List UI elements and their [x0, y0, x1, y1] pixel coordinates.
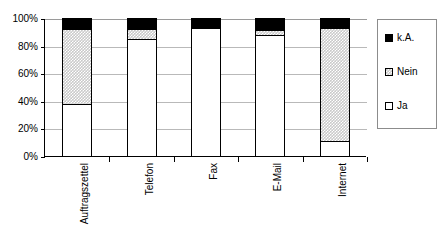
y-axis-tick [41, 157, 45, 158]
x-axis-tick [174, 157, 175, 162]
gray-dotted-swatch [385, 68, 393, 76]
bar-telefon[interactable] [127, 18, 157, 156]
legend-item-label: k.A. [397, 33, 414, 43]
bar-fax[interactable] [191, 18, 221, 156]
legend-item-nein[interactable]: Nein [385, 67, 418, 77]
x-axis-tick [109, 157, 110, 162]
bar-segment-nein[interactable] [320, 28, 350, 141]
black-swatch [385, 34, 393, 42]
x-axis-label-telefon: Telefon [145, 163, 155, 195]
bar-segment-nein[interactable] [62, 29, 92, 104]
y-axis-label: 80% [0, 42, 38, 52]
x-axis-label-fax: Fax [209, 163, 219, 180]
y-axis-tick [41, 47, 45, 48]
chart-legend: k.A.NeinJa [377, 19, 437, 129]
bar-segment-ka[interactable] [320, 18, 350, 28]
legend-item-ka[interactable]: k.A. [385, 33, 414, 43]
bar-segment-ja[interactable] [320, 141, 350, 156]
bar-segment-ka[interactable] [255, 18, 285, 30]
bar-segment-nein[interactable] [255, 30, 285, 34]
y-axis-label: 100% [0, 14, 38, 24]
chart-title-cropped [0, 0, 442, 9]
y-axis-label: 0% [0, 152, 38, 162]
white-swatch [385, 102, 393, 110]
y-axis-tick [41, 74, 45, 75]
bar-segment-ja[interactable] [255, 35, 285, 156]
y-axis-tick [41, 129, 45, 130]
legend-item-label: Ja [397, 101, 408, 111]
legend-item-ja[interactable]: Ja [385, 101, 408, 111]
y-axis-label: 40% [0, 97, 38, 107]
bar-internet[interactable] [320, 18, 350, 156]
bar-segment-nein[interactable] [127, 29, 157, 39]
stacked-bar-chart: 100%80%60%40%20%0% AuftragszettelTelefon… [0, 0, 442, 252]
legend-item-label: Nein [397, 67, 418, 77]
bar-segment-ja[interactable] [191, 28, 221, 156]
bar-auftragszettel[interactable] [62, 18, 92, 156]
y-axis-label: 20% [0, 124, 38, 134]
bar-segment-ka[interactable] [62, 18, 92, 29]
plot-area: 100%80%60%40%20%0% [44, 19, 366, 157]
x-axis-label-auftragszettel: Auftragszettel [80, 163, 90, 224]
x-axis-label-e-mail: E-Mail [273, 163, 283, 191]
y-axis-tick [41, 19, 45, 20]
bar-segment-ja[interactable] [62, 104, 92, 156]
bar-segment-ka[interactable] [127, 18, 157, 29]
x-axis-tick [303, 157, 304, 162]
bar-segment-ka[interactable] [191, 18, 221, 28]
x-axis-tick [367, 157, 368, 162]
y-axis-tick [41, 102, 45, 103]
bar-segment-ja[interactable] [127, 39, 157, 156]
x-axis-label-internet: Internet [338, 163, 348, 197]
x-axis-tick [238, 157, 239, 162]
y-axis-label: 60% [0, 69, 38, 79]
bar-e-mail[interactable] [255, 18, 285, 156]
